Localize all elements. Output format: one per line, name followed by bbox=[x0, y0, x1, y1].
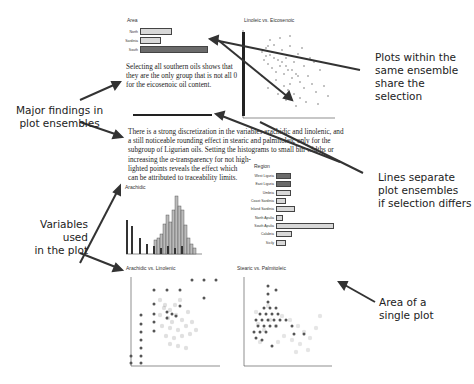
callout-line: Variables used bbox=[22, 218, 88, 244]
callout-area-single-plot: Area of a single plot bbox=[379, 296, 434, 322]
callout-line: Lines separate bbox=[378, 171, 472, 184]
scatter-stearic-palmitoleic[interactable] bbox=[244, 277, 332, 366]
callout-variables-used: Variables used in the plot bbox=[22, 218, 88, 257]
callout-line: Major findings in bbox=[16, 104, 103, 117]
callout-lines-separate: Lines separate plot ensembles if selecti… bbox=[378, 171, 472, 210]
callout-line: in the plot bbox=[22, 244, 88, 257]
annotation-arrows bbox=[80, 36, 375, 302]
callout-plots-share-selection: Plots within the same ensemble share the… bbox=[375, 51, 474, 103]
callout-line: same ensemble bbox=[375, 64, 474, 77]
callout-line: plot ensembles bbox=[378, 184, 472, 197]
scatter-arachidic-linolenic[interactable] bbox=[130, 277, 221, 366]
scatter-linoleic-eicosenoic[interactable] bbox=[242, 30, 335, 118]
histogram-arachidic[interactable] bbox=[126, 196, 202, 254]
callout-major-findings: Major findings in plot ensembles bbox=[16, 104, 103, 130]
callout-line: if selection differs bbox=[378, 197, 472, 210]
callout-line: single plot bbox=[379, 309, 434, 322]
callout-line: Area of a bbox=[379, 296, 434, 309]
callout-line: share the selection bbox=[375, 77, 474, 103]
callout-line: Plots within the bbox=[375, 51, 474, 64]
callout-line: plot ensembles bbox=[16, 117, 103, 130]
